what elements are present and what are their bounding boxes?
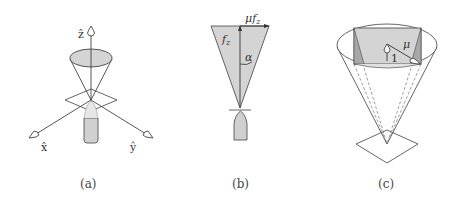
z-arrow-icon: [88, 26, 95, 36]
panel-c: 1 μ: [337, 24, 437, 163]
angle-label: α: [245, 51, 253, 64]
contact-plane: [356, 130, 418, 163]
friction-label: μfz: [245, 12, 261, 26]
x-arrow-icon: [29, 131, 39, 138]
caption-a: (a): [80, 177, 97, 191]
panel-b: μfz fz α: [211, 12, 270, 140]
caption-b: (b): [232, 177, 249, 191]
y-axis: [91, 100, 146, 134]
bullet-icon: [234, 111, 247, 140]
z-axis-label: ẑ: [78, 28, 84, 41]
x-axis-label: x̂: [41, 141, 48, 154]
caption-c: (c): [378, 177, 394, 191]
x-axis: [36, 100, 91, 134]
mu-label: μ: [403, 38, 410, 51]
unit-label: 1: [391, 52, 398, 65]
panel-a: ẑ x̂ ŷ: [29, 26, 153, 154]
figure-canvas: ẑ x̂ ŷ μfz fz α: [0, 0, 461, 198]
y-arrow-icon: [143, 131, 153, 138]
y-axis-label: ŷ: [129, 141, 137, 154]
